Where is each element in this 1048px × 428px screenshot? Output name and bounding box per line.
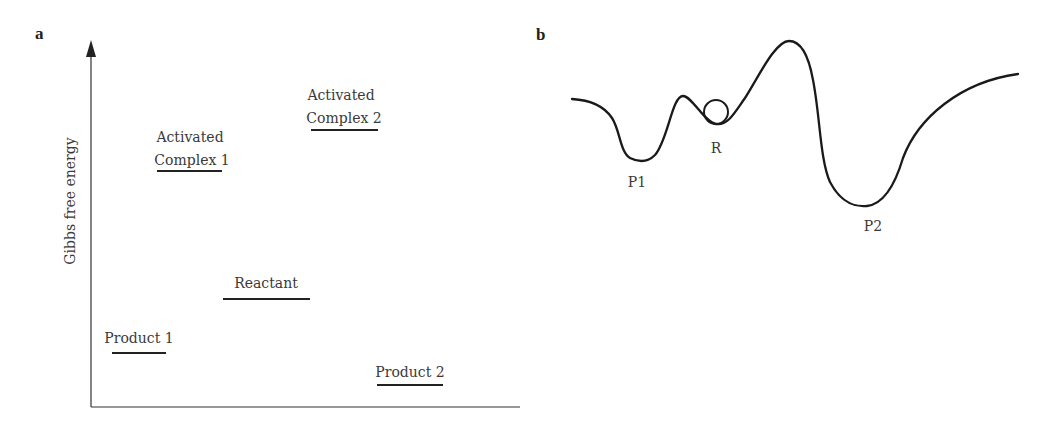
panel-b-label: b bbox=[536, 25, 545, 44]
r-label: R bbox=[711, 140, 722, 156]
level-label-line1: Activated bbox=[306, 87, 374, 103]
p1-label: P1 bbox=[628, 174, 646, 190]
ball-icon bbox=[704, 100, 728, 124]
p2-label: P2 bbox=[864, 218, 882, 234]
level-label-line1: Activated bbox=[155, 129, 223, 145]
panel-a: a Gibbs free energy Activated Complex 1 … bbox=[35, 24, 520, 407]
y-axis-label: Gibbs free energy bbox=[62, 137, 78, 264]
level-activated-complex-2: Activated Complex 2 bbox=[306, 87, 381, 130]
level-product-1: Product 1 bbox=[104, 330, 173, 353]
level-reactant: Reactant bbox=[223, 275, 310, 299]
level-label: Reactant bbox=[234, 275, 298, 291]
level-product-2: Product 2 bbox=[375, 364, 444, 385]
figure: a Gibbs free energy Activated Complex 1 … bbox=[0, 0, 1048, 428]
level-label: Product 2 bbox=[375, 364, 444, 380]
level-label-line2: Complex 2 bbox=[306, 110, 381, 126]
panel-a-label: a bbox=[35, 24, 44, 43]
level-activated-complex-1: Activated Complex 1 bbox=[154, 129, 229, 171]
panel-b: b P1 R P2 bbox=[536, 25, 1018, 234]
y-axis-arrow-icon bbox=[86, 40, 96, 57]
level-label: Product 1 bbox=[104, 330, 173, 346]
level-label-line2: Complex 1 bbox=[154, 152, 229, 168]
